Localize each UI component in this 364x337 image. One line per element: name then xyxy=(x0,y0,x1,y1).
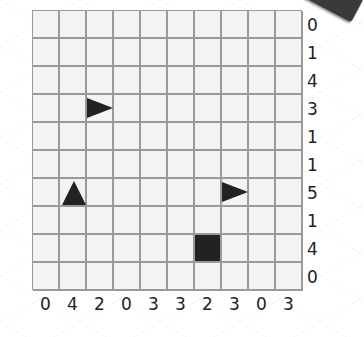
grid-cell[interactable] xyxy=(60,67,87,95)
grid-cell[interactable] xyxy=(60,235,87,263)
grid-cell[interactable] xyxy=(33,11,60,39)
grid-cell[interactable] xyxy=(249,11,276,39)
grid-cell[interactable] xyxy=(114,151,141,179)
grid-cell[interactable] xyxy=(276,11,303,39)
grid-cell[interactable] xyxy=(60,263,87,291)
grid-cell[interactable] xyxy=(168,235,195,263)
grid-cell[interactable] xyxy=(141,67,168,95)
grid-cell[interactable] xyxy=(222,207,249,235)
grid-cell[interactable] xyxy=(114,95,141,123)
grid-cell[interactable] xyxy=(249,39,276,67)
grid-cell[interactable] xyxy=(87,263,114,291)
grid-cell[interactable] xyxy=(114,179,141,207)
grid-cell[interactable] xyxy=(222,39,249,67)
grid-cell[interactable] xyxy=(195,263,222,291)
grid-cell[interactable] xyxy=(87,123,114,151)
grid-cell[interactable] xyxy=(33,151,60,179)
grid-cell[interactable] xyxy=(276,95,303,123)
grid-cell[interactable] xyxy=(60,39,87,67)
grid-cell[interactable] xyxy=(222,123,249,151)
grid-cell[interactable] xyxy=(168,67,195,95)
grid-cell[interactable] xyxy=(249,95,276,123)
grid-cell[interactable] xyxy=(168,151,195,179)
grid-cell[interactable] xyxy=(60,95,87,123)
grid-cell[interactable] xyxy=(33,39,60,67)
grid-cell[interactable] xyxy=(195,39,222,67)
grid-cell[interactable] xyxy=(222,67,249,95)
grid-cell[interactable] xyxy=(87,95,114,123)
grid-cell[interactable] xyxy=(276,151,303,179)
grid-cell[interactable] xyxy=(168,207,195,235)
grid-cell[interactable] xyxy=(195,179,222,207)
grid-cell[interactable] xyxy=(87,11,114,39)
grid-cell[interactable] xyxy=(114,235,141,263)
grid-cell[interactable] xyxy=(222,263,249,291)
grid-cell[interactable] xyxy=(141,95,168,123)
grid-cell[interactable] xyxy=(114,67,141,95)
grid-cell[interactable] xyxy=(276,235,303,263)
grid-cell[interactable] xyxy=(222,179,249,207)
grid-cell[interactable] xyxy=(60,123,87,151)
grid-cell[interactable] xyxy=(222,11,249,39)
grid-cell[interactable] xyxy=(276,123,303,151)
grid-cell[interactable] xyxy=(222,151,249,179)
grid-cell[interactable] xyxy=(33,263,60,291)
grid-cell[interactable] xyxy=(168,11,195,39)
grid-cell[interactable] xyxy=(33,95,60,123)
grid-cell[interactable] xyxy=(195,235,222,263)
grid-cell[interactable] xyxy=(141,179,168,207)
grid-cell[interactable] xyxy=(195,11,222,39)
grid-cell[interactable] xyxy=(276,263,303,291)
grid-cell[interactable] xyxy=(195,151,222,179)
grid-cell[interactable] xyxy=(33,67,60,95)
grid-cell[interactable] xyxy=(60,207,87,235)
grid-cell[interactable] xyxy=(60,151,87,179)
grid-cell[interactable] xyxy=(168,179,195,207)
grid-cell[interactable] xyxy=(195,207,222,235)
grid-cell[interactable] xyxy=(249,207,276,235)
grid-cell[interactable] xyxy=(114,263,141,291)
grid-cell[interactable] xyxy=(60,179,87,207)
grid-cell[interactable] xyxy=(195,67,222,95)
grid-cell[interactable] xyxy=(249,151,276,179)
grid-cell[interactable] xyxy=(276,179,303,207)
grid-cell[interactable] xyxy=(87,67,114,95)
grid-cell[interactable] xyxy=(87,207,114,235)
grid-cell[interactable] xyxy=(195,123,222,151)
grid-cell[interactable] xyxy=(195,95,222,123)
grid-cell[interactable] xyxy=(141,151,168,179)
grid-cell[interactable] xyxy=(222,95,249,123)
grid-cell[interactable] xyxy=(141,207,168,235)
grid-cell[interactable] xyxy=(168,123,195,151)
grid-cell[interactable] xyxy=(141,263,168,291)
grid-cell[interactable] xyxy=(114,39,141,67)
grid-cell[interactable] xyxy=(141,235,168,263)
grid-cell[interactable] xyxy=(114,207,141,235)
grid-cell[interactable] xyxy=(114,11,141,39)
grid-cell[interactable] xyxy=(249,235,276,263)
grid-cell[interactable] xyxy=(87,39,114,67)
grid-cell[interactable] xyxy=(33,207,60,235)
grid-cell[interactable] xyxy=(168,263,195,291)
grid-cell[interactable] xyxy=(60,11,87,39)
grid-cell[interactable] xyxy=(276,39,303,67)
grid-cell[interactable] xyxy=(33,235,60,263)
grid-cell[interactable] xyxy=(141,123,168,151)
grid-cell[interactable] xyxy=(87,235,114,263)
grid-cell[interactable] xyxy=(249,123,276,151)
grid-cell[interactable] xyxy=(249,67,276,95)
grid-cell[interactable] xyxy=(33,123,60,151)
grid-cell[interactable] xyxy=(87,151,114,179)
grid-cell[interactable] xyxy=(168,95,195,123)
grid-cell[interactable] xyxy=(114,123,141,151)
grid-cell[interactable] xyxy=(168,39,195,67)
grid-cell[interactable] xyxy=(249,263,276,291)
puzzle-grid[interactable] xyxy=(32,10,302,290)
grid-cell[interactable] xyxy=(222,235,249,263)
grid-cell[interactable] xyxy=(249,179,276,207)
grid-cell[interactable] xyxy=(141,39,168,67)
grid-cell[interactable] xyxy=(87,179,114,207)
grid-cell[interactable] xyxy=(33,179,60,207)
grid-cell[interactable] xyxy=(276,67,303,95)
grid-cell[interactable] xyxy=(141,11,168,39)
